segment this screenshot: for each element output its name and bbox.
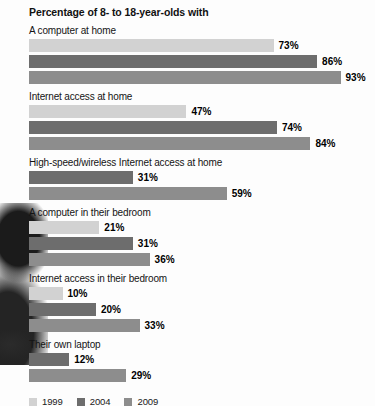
bar-row: 86% bbox=[0, 55, 375, 68]
bar-1999 bbox=[29, 39, 274, 52]
legend-label: 1999 bbox=[42, 396, 63, 406]
bar-row: 10% bbox=[0, 287, 375, 300]
bar-group: Internet access at home47%74%84% bbox=[0, 91, 375, 150]
bar-value-label: 74% bbox=[282, 121, 302, 134]
legend-item-1999[interactable]: 1999 bbox=[29, 396, 63, 406]
legend-item-2009[interactable]: 2009 bbox=[124, 396, 158, 406]
bar-value-label: 33% bbox=[145, 319, 165, 332]
bar-2004 bbox=[29, 171, 133, 184]
bar-value-label: 93% bbox=[346, 71, 366, 84]
bar-row: 20% bbox=[0, 303, 375, 316]
bar-2009 bbox=[29, 253, 150, 266]
legend-label: 2009 bbox=[137, 396, 158, 406]
bar-left-margin bbox=[0, 39, 29, 52]
bar-left-margin bbox=[0, 71, 29, 84]
bar-value-label: 21% bbox=[104, 221, 124, 234]
bar-1999 bbox=[29, 105, 186, 118]
bar-2009 bbox=[29, 71, 341, 84]
bar-row: 93% bbox=[0, 71, 375, 84]
bar-value-label: 73% bbox=[279, 39, 299, 52]
bar-2004 bbox=[29, 55, 317, 68]
chart-title: Percentage of 8- to 18-year-olds with bbox=[29, 6, 375, 18]
bar-2004 bbox=[29, 303, 96, 316]
bar-left-margin bbox=[0, 221, 29, 234]
legend-swatch-icon bbox=[77, 398, 85, 406]
legend-swatch-icon bbox=[124, 398, 132, 406]
bar-1999 bbox=[29, 287, 63, 300]
bar-row: 74% bbox=[0, 121, 375, 134]
bar-value-label: 31% bbox=[138, 171, 158, 184]
bar-row: 84% bbox=[0, 137, 375, 150]
bar-left-margin bbox=[0, 369, 29, 382]
bar-value-label: 84% bbox=[315, 137, 335, 150]
bar-value-label: 47% bbox=[191, 105, 211, 118]
bar-left-margin bbox=[0, 287, 29, 300]
chart-container: Percentage of 8- to 18-year-olds with A … bbox=[0, 0, 375, 406]
legend-swatch-icon bbox=[29, 398, 37, 406]
bar-left-margin bbox=[0, 319, 29, 332]
bar-2004 bbox=[29, 237, 133, 250]
bar-value-label: 36% bbox=[155, 253, 175, 266]
bar-left-margin bbox=[0, 137, 29, 150]
bar-group-label: A computer at home bbox=[29, 25, 375, 36]
bar-value-label: 10% bbox=[68, 287, 88, 300]
bar-left-margin bbox=[0, 353, 29, 366]
bar-2009 bbox=[29, 319, 140, 332]
bar-value-label: 86% bbox=[322, 55, 342, 68]
bar-left-margin bbox=[0, 171, 29, 184]
bar-row: 31% bbox=[0, 237, 375, 250]
bar-row: 73% bbox=[0, 39, 375, 52]
legend-item-2004[interactable]: 2004 bbox=[77, 396, 111, 406]
bar-group-label: Their own laptop bbox=[29, 339, 375, 350]
bar-1999 bbox=[29, 221, 99, 234]
bar-row: 33% bbox=[0, 319, 375, 332]
bar-2009 bbox=[29, 137, 310, 150]
bar-row: 12% bbox=[0, 353, 375, 366]
bar-value-label: 59% bbox=[232, 187, 252, 200]
bar-row: 36% bbox=[0, 253, 375, 266]
bar-left-margin bbox=[0, 121, 29, 134]
bar-value-label: 29% bbox=[131, 369, 151, 382]
bar-2009 bbox=[29, 187, 227, 200]
bar-value-label: 20% bbox=[101, 303, 121, 316]
bar-group: A computer at home73%86%93% bbox=[0, 25, 375, 84]
bar-2004 bbox=[29, 353, 69, 366]
bar-2009 bbox=[29, 369, 126, 382]
bar-group: Their own laptop12%29% bbox=[0, 339, 375, 382]
bar-left-margin bbox=[0, 187, 29, 200]
bar-group-label: A computer in their bedroom bbox=[29, 207, 375, 218]
bar-group: High-speed/wireless Internet access at h… bbox=[0, 157, 375, 200]
bar-value-label: 12% bbox=[74, 353, 94, 366]
bar-2004 bbox=[29, 121, 277, 134]
bar-group: Internet access in their bedroom10%20%33… bbox=[0, 273, 375, 332]
chart-groups: A computer at home73%86%93%Internet acce… bbox=[0, 25, 375, 382]
bar-row: 47% bbox=[0, 105, 375, 118]
bar-group-label: Internet access at home bbox=[29, 91, 375, 102]
chart-legend: 199920042009 bbox=[29, 396, 375, 406]
bar-row: 29% bbox=[0, 369, 375, 382]
bar-row: 31% bbox=[0, 171, 375, 184]
bar-left-margin bbox=[0, 303, 29, 316]
bar-row: 21% bbox=[0, 221, 375, 234]
bar-left-margin bbox=[0, 237, 29, 250]
bar-row: 59% bbox=[0, 187, 375, 200]
bar-group-label: High-speed/wireless Internet access at h… bbox=[29, 157, 375, 168]
bar-chart: Percentage of 8- to 18-year-olds with A … bbox=[0, 0, 375, 406]
bar-left-margin bbox=[0, 55, 29, 68]
bar-left-margin bbox=[0, 105, 29, 118]
legend-label: 2004 bbox=[90, 396, 111, 406]
bar-group-label: Internet access in their bedroom bbox=[29, 273, 375, 284]
bar-left-margin bbox=[0, 253, 29, 266]
bar-value-label: 31% bbox=[138, 237, 158, 250]
bar-group: A computer in their bedroom21%31%36% bbox=[0, 207, 375, 266]
